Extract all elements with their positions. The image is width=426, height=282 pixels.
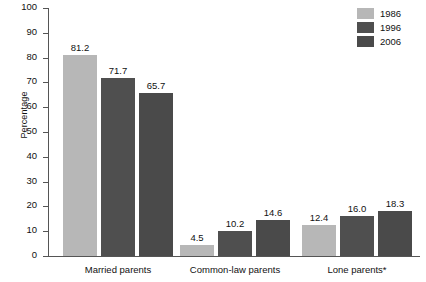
legend-item-1996[interactable]: 1996 [357,20,401,34]
bar-1996-2[interactable]: 16.0 [340,216,374,256]
bar-value-label: 16.0 [348,203,367,214]
bar-value-label: 14.6 [264,207,283,218]
legend-label: 1996 [380,22,401,33]
y-tick-label: 80 [26,51,37,62]
y-tick-label: 10 [26,224,37,235]
y-tick-label: 40 [26,150,37,161]
bar-1996-0[interactable]: 71.7 [101,78,135,256]
legend-swatch-icon [357,8,374,19]
legend: 198619962006 [357,6,401,48]
y-tick-label: 20 [26,199,37,210]
bar-1996-1[interactable]: 10.2 [218,231,252,256]
legend-swatch-icon [357,36,374,47]
bar-value-label: 4.5 [190,232,203,243]
legend-item-1986[interactable]: 1986 [357,6,401,20]
group-label-0: Married parents [85,264,152,275]
y-tick-label: 60 [26,100,37,111]
x-axis-line [48,256,420,257]
legend-label: 1986 [380,8,401,19]
bar-chart: Percentage 1009080706050403020100 81.271… [0,0,426,282]
y-tick-label: 50 [26,125,37,136]
y-tick-label: 30 [26,175,37,186]
bar-value-label: 65.7 [147,80,166,91]
bar-value-label: 71.7 [109,65,128,76]
bar-value-label: 18.3 [386,198,405,209]
group-label-2: Lone parents* [327,264,386,275]
bar-2006-2[interactable]: 18.3 [378,211,412,256]
legend-label: 2006 [380,36,401,47]
y-tick-label: 0 [32,249,37,260]
bar-1986-0[interactable]: 81.2 [63,55,97,256]
bar-value-label: 12.4 [310,212,329,223]
group-label-1: Common-law parents [190,264,280,275]
bar-value-label: 10.2 [226,218,245,229]
legend-item-2006[interactable]: 2006 [357,34,401,48]
bar-2006-0[interactable]: 65.7 [139,93,173,256]
bar-value-label: 81.2 [71,42,90,53]
bar-1986-2[interactable]: 12.4 [302,225,336,256]
bar-1986-1[interactable]: 4.5 [180,245,214,256]
y-tick-mark [43,256,48,257]
y-tick-label: 100 [21,1,37,12]
y-tick-label: 70 [26,75,37,86]
bar-2006-1[interactable]: 14.6 [256,220,290,256]
legend-swatch-icon [357,22,374,33]
y-tick-label: 90 [26,26,37,37]
